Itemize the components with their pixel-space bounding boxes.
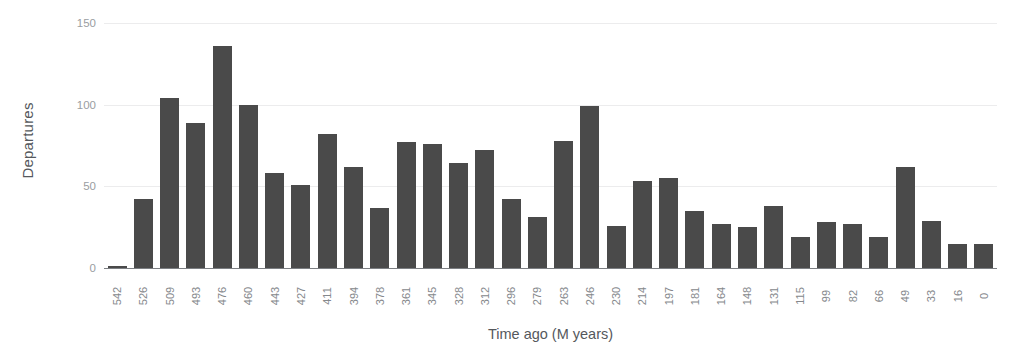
x-tick-label: 82 [847, 290, 859, 302]
x-tick-label: 460 [242, 287, 254, 305]
gridline-0 [104, 268, 997, 269]
bar[interactable] [791, 237, 810, 268]
x-tick-label: 0 [978, 293, 990, 299]
x-tick-label: 148 [741, 287, 753, 305]
bar[interactable] [318, 134, 337, 268]
bar[interactable] [213, 46, 232, 268]
x-tick: 296 [502, 272, 521, 316]
bar[interactable] [974, 244, 993, 269]
bar[interactable] [449, 163, 468, 268]
y-axis-title: Departures [14, 0, 40, 280]
bar[interactable] [659, 178, 678, 268]
x-tick-label: 542 [111, 287, 123, 305]
bar[interactable] [344, 167, 363, 268]
bar[interactable] [869, 237, 888, 268]
x-tick-label: 328 [453, 287, 465, 305]
x-tick: 279 [528, 272, 547, 316]
x-tick-label: 49 [899, 290, 911, 302]
bar[interactable] [685, 211, 704, 268]
x-tick-label: 509 [164, 287, 176, 305]
x-tick: 0 [974, 272, 993, 316]
bar[interactable] [370, 208, 389, 268]
x-tick: 427 [291, 272, 310, 316]
bar[interactable] [607, 226, 626, 268]
bar[interactable] [186, 123, 205, 268]
bar[interactable] [397, 142, 416, 268]
x-tick: 263 [554, 272, 573, 316]
plot-area [104, 23, 997, 268]
x-tick: 164 [712, 272, 731, 316]
bar[interactable] [528, 217, 547, 268]
bar[interactable] [764, 206, 783, 268]
x-tick-label: 246 [584, 287, 596, 305]
bar[interactable] [239, 105, 258, 268]
x-tick: 394 [344, 272, 363, 316]
x-tick: 49 [896, 272, 915, 316]
x-tick: 312 [475, 272, 494, 316]
x-tick-label: 230 [610, 287, 622, 305]
bar[interactable] [738, 227, 757, 268]
bar[interactable] [948, 244, 967, 269]
x-axis-ticks: 5425265094934764604434274113943783613453… [104, 272, 997, 318]
x-tick-label: 493 [190, 287, 202, 305]
y-tick-label: 50 [36, 180, 96, 192]
x-tick-label: 197 [663, 287, 675, 305]
x-tick: 509 [160, 272, 179, 316]
x-tick: 214 [633, 272, 652, 316]
x-tick: 148 [738, 272, 757, 316]
bar[interactable] [896, 167, 915, 268]
bar[interactable] [922, 221, 941, 268]
x-tick: 230 [607, 272, 626, 316]
x-tick-label: 16 [952, 290, 964, 302]
x-tick: 16 [948, 272, 967, 316]
bar[interactable] [423, 144, 442, 268]
x-tick: 361 [397, 272, 416, 316]
x-tick: 82 [843, 272, 862, 316]
y-axis-title-text: Departures [19, 102, 36, 178]
y-tick-label: 100 [36, 99, 96, 111]
x-tick: 460 [239, 272, 258, 316]
bar[interactable] [160, 98, 179, 268]
bar[interactable] [134, 199, 153, 268]
bar[interactable] [633, 181, 652, 268]
x-tick-label: 33 [925, 290, 937, 302]
x-tick-label: 476 [216, 287, 228, 305]
bar[interactable] [291, 185, 310, 268]
x-tick-label: 345 [426, 287, 438, 305]
x-tick: 526 [134, 272, 153, 316]
x-tick: 443 [265, 272, 284, 316]
x-tick-label: 411 [321, 287, 333, 305]
x-tick-label: 66 [873, 290, 885, 302]
y-tick-label: 0 [36, 262, 96, 274]
x-tick: 542 [108, 272, 127, 316]
x-tick-label: 164 [715, 287, 727, 305]
x-tick-label: 181 [689, 287, 701, 305]
x-tick-label: 214 [636, 287, 648, 305]
bar[interactable] [475, 150, 494, 268]
x-tick: 411 [318, 272, 337, 316]
x-tick-label: 296 [505, 287, 517, 305]
x-tick-label: 361 [400, 287, 412, 305]
bar[interactable] [580, 106, 599, 268]
bar-chart: Departures 050100150 5425265094934764604… [0, 0, 1023, 363]
x-tick: 131 [764, 272, 783, 316]
bar[interactable] [843, 224, 862, 268]
x-tick: 33 [922, 272, 941, 316]
x-tick: 99 [817, 272, 836, 316]
x-tick: 493 [186, 272, 205, 316]
bar[interactable] [108, 266, 127, 268]
bar[interactable] [817, 222, 836, 268]
y-tick-label: 150 [36, 17, 96, 29]
x-tick-label: 443 [269, 287, 281, 305]
bar[interactable] [712, 224, 731, 268]
x-tick-label: 394 [348, 287, 360, 305]
x-tick: 328 [449, 272, 468, 316]
x-tick-label: 378 [374, 287, 386, 305]
bar[interactable] [265, 173, 284, 268]
bar[interactable] [554, 141, 573, 268]
x-tick: 476 [213, 272, 232, 316]
x-tick-label: 526 [137, 287, 149, 305]
bar[interactable] [502, 199, 521, 268]
x-tick-label: 312 [479, 287, 491, 305]
bars [104, 23, 997, 268]
